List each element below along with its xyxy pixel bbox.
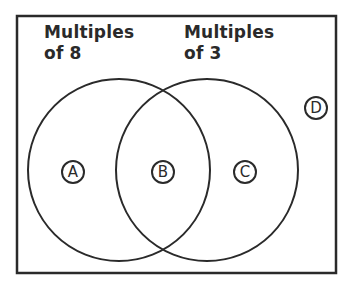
region-c: C — [233, 160, 257, 184]
set-label-multiples-of-3: Multiples of 3 — [184, 22, 274, 64]
set-label-line1: Multiples — [184, 22, 274, 43]
region-d: D — [304, 96, 328, 120]
set-label-multiples-of-8: Multiples of 8 — [44, 22, 134, 64]
set-label-line1: Multiples — [44, 22, 134, 43]
set-label-line2: of 3 — [184, 43, 274, 64]
set-label-line2: of 8 — [44, 43, 134, 64]
circle-multiples-of-8 — [28, 79, 210, 261]
region-b: B — [151, 160, 175, 184]
circle-multiples-of-3 — [116, 79, 298, 261]
region-a: A — [61, 160, 85, 184]
